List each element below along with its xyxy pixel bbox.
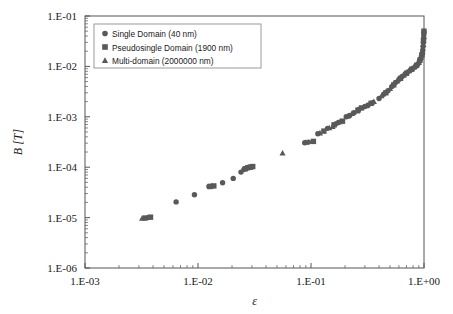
data-point-circle — [173, 199, 178, 204]
x-tick-label: 1.E-03 — [70, 275, 100, 287]
legend-label: Single Domain (40 nm) — [112, 29, 197, 39]
y-tick-label: 1.E-04 — [47, 161, 77, 173]
scatter-plot: 1.E-031.E-021.E-011.E+001.E-011.E-021.E-… — [0, 0, 453, 314]
legend-marker-square — [102, 44, 108, 50]
y-tick-label: 1.E-05 — [47, 212, 77, 224]
data-point-circle — [220, 180, 225, 185]
data-point-square — [211, 183, 216, 188]
x-axis-title: ε — [252, 294, 257, 308]
x-tick-label: 1.E-01 — [296, 275, 326, 287]
y-tick-label: 1.E-03 — [47, 111, 77, 123]
x-tick-label: 1.E+00 — [408, 275, 441, 287]
y-tick-label: 1.E-01 — [47, 10, 77, 22]
data-point-square — [250, 164, 255, 169]
legend: Single Domain (40 nm)Pseudosingle Domain… — [94, 24, 261, 68]
y-tick-label: 1.E-06 — [47, 262, 77, 274]
data-point-square — [311, 139, 316, 144]
x-tick-label: 1.E-02 — [183, 275, 213, 287]
data-point-square — [321, 128, 326, 133]
y-tick-label: 1.E-02 — [47, 60, 77, 72]
data-point-circle — [231, 176, 236, 181]
legend-label: Pseudosingle Domain (1900 nm) — [112, 43, 233, 53]
figure-container: 1.E-031.E-021.E-011.E+001.E-011.E-021.E-… — [0, 0, 453, 314]
data-point-circle — [192, 192, 197, 197]
data-point-square — [421, 28, 426, 33]
y-axis-title: B [T] — [11, 128, 25, 155]
legend-label: Multi-domain (2000000 nm) — [112, 56, 214, 66]
legend-marker-circle — [102, 31, 108, 37]
data-point-square — [359, 105, 364, 110]
data-point-square — [148, 214, 153, 219]
